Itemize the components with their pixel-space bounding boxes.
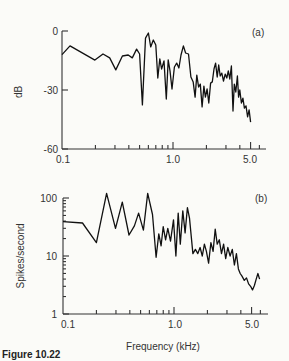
x-tick-label: 1.0 (168, 319, 182, 330)
y-tick-label: 1 (51, 309, 57, 320)
x-tick-label: 5.0 (243, 154, 257, 165)
curve-a (62, 33, 251, 122)
x-axis-title: Frequency (kHz) (126, 341, 200, 352)
panel-a: dB (a) 0 -30 -60 0.1 1.0 5.0 (13, 26, 266, 165)
panel-b: Spikes/second (b) 100 10 1 0.1 1.0 5.0 (15, 193, 268, 330)
x-tick-label: 0.1 (61, 319, 75, 330)
x-tick-label: 5.0 (245, 319, 259, 330)
y-tick-label: 100 (40, 193, 57, 204)
y-tick-label: 10 (46, 251, 58, 262)
figure-caption: Figure 10.22 (2, 349, 61, 360)
panel-label-b: (b) (255, 193, 267, 204)
y-axis-title-a: dB (13, 86, 24, 99)
figure-canvas: dB (a) 0 -30 -60 0.1 1.0 5.0 Spikes/seco… (0, 0, 289, 361)
x-tick-label: 1.0 (166, 154, 180, 165)
y-tick-label: -30 (44, 85, 59, 96)
y-axis-title-b: Spikes/second (15, 223, 26, 288)
curve-b (63, 193, 260, 290)
x-tick-label: 0.1 (56, 154, 70, 165)
y-tick-label: 0 (52, 26, 58, 37)
panel-label-a: (a) (252, 27, 264, 38)
